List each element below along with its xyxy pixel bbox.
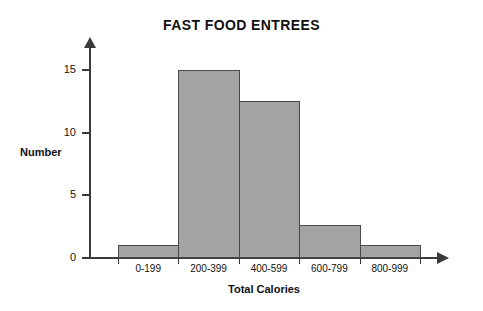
x-tick-mark-5 — [420, 259, 421, 264]
y-axis-line — [89, 46, 91, 259]
x-category-label-0: 0-199 — [118, 263, 178, 274]
y-tick-label-3: 15 — [42, 63, 76, 75]
bar-1[interactable] — [178, 70, 239, 258]
y-tick-label-0: 0 — [42, 251, 76, 263]
y-tick-label-1: 5 — [42, 188, 76, 200]
y-tick-mark-2 — [82, 132, 90, 134]
x-category-label-4: 800-999 — [360, 263, 420, 274]
x-category-label-1: 200-399 — [178, 263, 238, 274]
y-tick-mark-0 — [82, 257, 90, 259]
plot-area: 0 5 10 15 0-199 200-399 400-599 600-799 … — [0, 0, 483, 311]
y-tick-mark-1 — [82, 194, 90, 196]
bar-4[interactable] — [360, 245, 421, 258]
x-axis-title: Total Calories — [89, 283, 439, 295]
x-category-label-2: 400-599 — [239, 263, 299, 274]
y-tick-label-2: 10 — [42, 126, 76, 138]
bar-0[interactable] — [118, 245, 179, 258]
y-tick-mark-3 — [82, 69, 90, 71]
bar-3[interactable] — [299, 225, 360, 258]
x-category-label-3: 600-799 — [299, 263, 359, 274]
bar-2[interactable] — [239, 101, 300, 258]
x-axis-right-arrow-icon — [437, 252, 449, 264]
y-axis-title: Number — [20, 146, 62, 158]
y-axis-up-arrow-icon — [84, 37, 96, 48]
chart-figure: FAST FOOD ENTREES 0 5 10 15 0-199 200-39… — [0, 0, 483, 311]
